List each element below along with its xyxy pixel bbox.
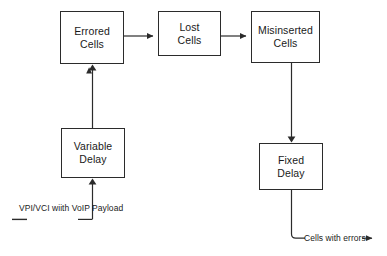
input-label-line3: VoIP Payload xyxy=(72,203,123,213)
node-lost-cells-line2: Cells xyxy=(178,34,202,47)
node-misinserted-cells[interactable]: Misinserted Cells xyxy=(251,11,320,63)
node-variable-delay-line2: Delay xyxy=(79,153,106,166)
node-errored-cells-line1: Errored xyxy=(74,25,110,38)
node-variable-delay[interactable]: Variable Delay xyxy=(61,128,125,178)
node-fixed-delay-line2: Delay xyxy=(277,167,304,180)
connector-fixed-delay-to-output xyxy=(292,190,373,238)
node-misinserted-cells-line1: Misinserted xyxy=(258,24,313,37)
node-lost-cells[interactable]: Lost Cells xyxy=(158,11,221,56)
output-label: Cells with errors xyxy=(304,233,384,244)
node-fixed-delay-line1: Fixed xyxy=(278,154,304,167)
node-errored-cells[interactable]: Errored Cells xyxy=(60,11,124,64)
node-misinserted-cells-line2: Cells xyxy=(274,37,298,50)
connector-misinserted-to-fixed-delay xyxy=(288,63,296,143)
input-label-line1: VPI/VCI xyxy=(19,203,50,213)
diagram-canvas: Errored Cells Lost Cells Misinserted Cel… xyxy=(0,0,387,256)
input-label-line2: wiith xyxy=(52,203,69,213)
input-label: VPI/VCI wiith VoIP Payload xyxy=(19,203,109,214)
node-fixed-delay[interactable]: Fixed Delay xyxy=(259,143,323,190)
node-lost-cells-line1: Lost xyxy=(179,21,199,34)
connector-variable-delay-to-errored xyxy=(89,64,97,128)
node-variable-delay-line1: Variable xyxy=(74,140,113,153)
node-errored-cells-line2: Cells xyxy=(80,38,104,51)
